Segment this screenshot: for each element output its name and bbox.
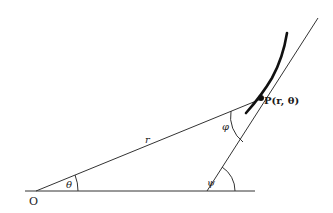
radius-vector xyxy=(36,99,261,191)
theta-arc xyxy=(75,175,78,191)
theta-label: θ xyxy=(66,179,72,190)
radius-label: r xyxy=(145,134,151,145)
point-label: P(r, θ) xyxy=(264,95,299,107)
psi-arc xyxy=(222,167,235,191)
tangent-line xyxy=(207,18,318,191)
phi-label: φ xyxy=(222,121,229,132)
psi-label: ψ xyxy=(207,177,215,188)
polar-tangent-diagram: O θ r φ ψ P(r, θ) xyxy=(0,0,333,213)
origin-label: O xyxy=(29,195,38,208)
